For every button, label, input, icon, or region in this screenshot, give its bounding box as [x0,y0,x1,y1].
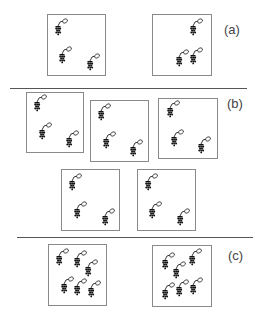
grape-cluster-icon [197,136,211,154]
grape-cluster-icon [97,103,111,121]
grape-cluster-icon [176,208,190,226]
grape-cluster-icon [148,201,162,219]
grape-cluster-icon [87,280,101,298]
grape-cluster-icon [172,261,186,279]
panel-label: (c) [228,248,243,263]
grape-cluster-icon [38,122,52,140]
panel-label: (b) [227,96,243,111]
panel-separator [17,237,253,238]
grape-cluster-icon [58,46,72,64]
grape-cluster-icon [189,277,203,295]
grape-cluster-icon [54,18,68,36]
grape-cluster-icon [175,49,189,67]
grape-cluster-icon [189,18,203,36]
grape-cluster-icon [65,130,79,148]
grape-cluster-icon [84,259,98,277]
grape-cluster-icon [73,278,87,296]
grape-cluster-icon [73,201,87,219]
grape-cluster-icon [188,248,202,266]
grape-cluster-icon [166,100,180,118]
grape-cluster-icon [102,131,116,149]
grape-cluster-icon [189,47,203,65]
grape-cluster-icon [161,282,175,300]
panel-label: (a) [224,22,240,37]
grape-cluster-icon [144,173,158,191]
grape-cluster-icon [55,248,69,266]
grape-cluster-icon [60,276,74,294]
grape-cluster-icon [170,129,184,147]
grape-cluster-icon [129,139,143,157]
grape-cluster-icon [175,279,189,297]
grape-cluster-icon [86,53,100,71]
panel-separator [10,88,247,89]
grape-cluster-icon [101,208,115,226]
grape-cluster-icon [68,173,82,191]
grape-cluster-icon [33,94,47,112]
